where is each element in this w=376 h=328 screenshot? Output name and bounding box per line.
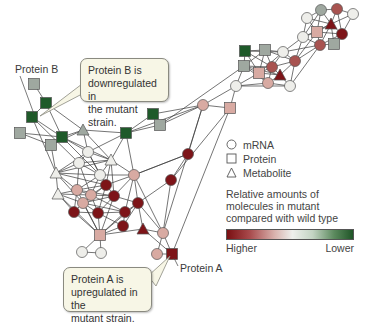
- mrna-node: [72, 185, 83, 196]
- scale-ends: Higher Lower: [226, 242, 354, 254]
- network-edge: [126, 133, 134, 175]
- callout-line: mutant strain.: [71, 312, 144, 325]
- mrna-node: [129, 170, 140, 181]
- network-edge: [172, 108, 230, 254]
- mrna-node: [78, 198, 89, 209]
- protein-node: [240, 46, 251, 57]
- protein-node: [260, 45, 271, 56]
- mrna-node: [69, 207, 80, 218]
- protein-node: [41, 98, 52, 109]
- network-edge: [138, 180, 171, 203]
- legend-label: Protein: [243, 153, 276, 165]
- mrna-node: [109, 191, 120, 202]
- protein-b-callout: Protein B is downregulated in the mutant…: [80, 58, 169, 102]
- protein-node: [29, 79, 40, 90]
- square-icon: [226, 153, 237, 164]
- metabolite-node: [137, 223, 149, 234]
- protein-node: [225, 103, 236, 114]
- mrna-node: [93, 208, 104, 219]
- metabolite-node: [325, 18, 337, 29]
- mrna-node: [290, 56, 301, 67]
- network-edge: [160, 105, 203, 125]
- mrna-node: [120, 207, 131, 218]
- protein-node: [95, 230, 106, 241]
- mrna-node: [101, 180, 112, 191]
- network-edge: [83, 130, 126, 133]
- mrna-node: [183, 149, 194, 160]
- protein-node: [239, 61, 250, 72]
- mrna-node: [263, 78, 274, 89]
- legend-label: Metabolite: [243, 167, 291, 179]
- circle-icon: [226, 139, 237, 150]
- protein-a-callout: Protein A is upregulated in the mutant s…: [63, 267, 152, 312]
- scale-higher-label: Higher: [226, 242, 257, 254]
- mrna-node: [298, 32, 309, 43]
- network-edge: [134, 154, 188, 175]
- callout-line: upregulated in the: [71, 286, 144, 312]
- network-edge: [163, 105, 203, 233]
- protein-node: [312, 27, 323, 38]
- legend-item-metabolite: Metabolite: [226, 166, 366, 179]
- protein-node: [329, 39, 340, 50]
- mrna-node: [77, 247, 88, 258]
- scale-title-line: molecules in mutant: [226, 200, 366, 212]
- mrna-node: [166, 175, 177, 186]
- mrna-node: [315, 40, 326, 51]
- mrna-node: [152, 249, 163, 260]
- mrna-node: [133, 198, 144, 209]
- protein-node: [57, 132, 68, 143]
- mrna-node: [95, 170, 106, 181]
- mrna-node: [74, 158, 85, 169]
- scale-lower-label: Lower: [325, 242, 354, 254]
- protein-a-label: Protein A: [180, 262, 223, 274]
- network-edge: [171, 108, 230, 180]
- protein-node: [121, 128, 132, 139]
- network-edge: [163, 180, 171, 233]
- mrna-node: [302, 13, 313, 24]
- mrna-node: [285, 81, 296, 92]
- mrna-node: [118, 221, 129, 232]
- mrna-node: [158, 228, 169, 239]
- callout-line: the mutant strain.: [88, 103, 161, 129]
- mrna-node: [231, 81, 242, 92]
- network-edge: [20, 133, 62, 137]
- mrna-node: [83, 147, 94, 158]
- protein-node: [15, 128, 26, 139]
- metabolite-node: [52, 188, 64, 199]
- color-scale-bar: [226, 229, 354, 240]
- mrna-node: [337, 29, 348, 40]
- metabolite-node: [50, 167, 62, 178]
- protein-b-label: Protein B: [15, 63, 58, 75]
- scale-title-line: compared with wild type: [226, 212, 366, 224]
- callout-line: Protein B is: [88, 64, 161, 77]
- mrna-node: [278, 47, 289, 58]
- legend-label: mRNA: [243, 139, 274, 151]
- legend-item-protein: Protein: [226, 152, 366, 165]
- legend-item-mrna: mRNA: [226, 138, 366, 151]
- mrna-node: [198, 100, 209, 111]
- mrna-node: [267, 62, 278, 73]
- scale-title: Relative amounts of molecules in mutant …: [226, 188, 366, 224]
- mrna-node: [348, 9, 359, 20]
- protein-b-node: [27, 112, 38, 123]
- scale-title-line: Relative amounts of: [226, 188, 366, 200]
- callout-line: downregulated in: [88, 77, 161, 103]
- mrna-node: [96, 248, 107, 259]
- callout-line: Protein A is: [71, 273, 144, 286]
- legend: mRNA Protein Metabolite Relative amounts…: [226, 138, 366, 254]
- triangle-icon: [226, 167, 237, 178]
- mrna-node: [86, 190, 97, 201]
- mrna-node: [332, 4, 343, 15]
- protein-node: [46, 140, 57, 151]
- mrna-node: [316, 5, 327, 16]
- protein-node: [254, 68, 265, 79]
